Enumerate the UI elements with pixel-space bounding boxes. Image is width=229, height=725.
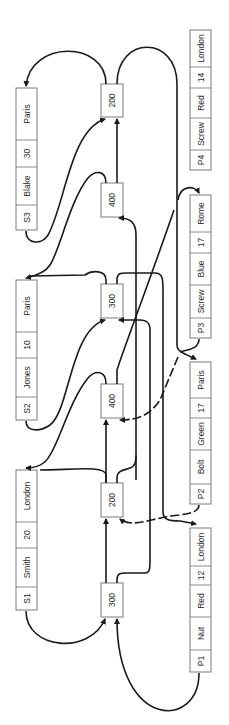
quantity-label: 200 (107, 493, 117, 507)
pointer-arrow (26, 51, 106, 86)
part-record-p1: P1 Nut Red 12 London (190, 528, 211, 672)
supplier-name: Blake (22, 175, 32, 197)
supplier-status: 10 (22, 340, 32, 350)
supplier-status: 20 (22, 530, 32, 540)
supplier-id: S1 (22, 593, 32, 604)
part-name: Nut (196, 626, 206, 640)
pointer-arrow (117, 47, 196, 359)
part-city: London (196, 533, 206, 562)
part-chain-pointers (117, 47, 199, 710)
supplier-record-s1: S1 Smith 20 London (16, 470, 37, 610)
supplier-city: Paris (22, 296, 32, 315)
quantity-box-s1-200: 200 (101, 483, 123, 517)
pointer-arrow (26, 611, 105, 643)
pointer-arrow (26, 320, 105, 430)
quantity-box-s2-300: 300 (101, 284, 123, 318)
supplier-record-s2: S2 Jones 10 Paris (16, 280, 37, 420)
part-weight: 14 (196, 73, 206, 83)
supplier-id: S3 (22, 212, 32, 223)
part-city: Paris (196, 370, 206, 389)
pointer-arrow (117, 619, 199, 711)
part-color: Red (196, 95, 206, 111)
pointer-arrow (119, 218, 136, 480)
quantity-label: 300 (107, 593, 117, 607)
pointer-arrow (117, 320, 150, 583)
quantity-box-s2-400: 400 (101, 384, 123, 418)
pointer-arrow (120, 357, 178, 420)
supplier-city: London (22, 482, 32, 511)
part-id: P4 (196, 155, 206, 166)
pointer-arrow (26, 373, 106, 468)
part-record-p2: P2 Bolt Green 17 Paris (190, 362, 211, 504)
part-weight: 17 (196, 403, 206, 413)
part-weight: 17 (196, 238, 206, 248)
part-id: P3 (196, 323, 206, 334)
part-id: P1 (196, 656, 206, 667)
part-name: Screw (196, 289, 206, 313)
pointer-arrow (120, 505, 199, 523)
quantity-box-s1-300: 300 (101, 583, 123, 617)
part-weight: 12 (196, 571, 206, 581)
supplier-record-s3: S3 Blake 30 Paris (16, 88, 37, 230)
supplier-name: Jones (22, 366, 32, 389)
supplier-city: Paris (22, 104, 32, 123)
part-city: London (196, 34, 206, 63)
supplier-chain-pointers (26, 51, 117, 643)
part-name: Bolt (196, 459, 206, 474)
part-color: Green (196, 422, 206, 446)
supplier-status: 30 (22, 149, 32, 159)
part-color: Red (196, 593, 206, 609)
supplier-id: S2 (22, 403, 32, 414)
part-record-p3: P3 Screw Blue 17 Rome (190, 195, 211, 338)
storage-structure-diagram: S3 Blake 30 Paris S2 Jones 10 Paris S1 S… (0, 0, 229, 725)
part-color: Blue (196, 260, 206, 277)
part-name: Screw (196, 121, 206, 145)
quantity-label: 400 (107, 193, 117, 207)
quantity-box-s3-400: 400 (101, 183, 123, 217)
quantity-label: 400 (107, 394, 117, 408)
part-city: Rome (196, 202, 206, 225)
quantity-label: 300 (107, 294, 117, 308)
part-id: P2 (196, 489, 206, 500)
pointer-arrow (26, 173, 106, 278)
part-record-p4: P4 Screw Red 14 London (190, 30, 211, 170)
quantity-label: 200 (107, 93, 117, 107)
supplier-name: Smith (22, 556, 32, 578)
quantity-box-s3-200: 200 (101, 84, 123, 117)
pointer-arrow (117, 273, 196, 524)
